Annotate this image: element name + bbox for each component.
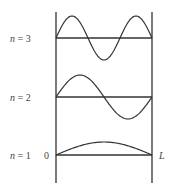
label-L: L (158, 150, 165, 161)
standing-wave-diagram: n = 3 n = 2 n = 1 0 L (0, 0, 172, 194)
label-n3: n = 3 (10, 33, 31, 44)
label-n1: n = 1 (10, 150, 31, 161)
label-zero: 0 (44, 150, 49, 161)
label-n2: n = 2 (10, 92, 31, 103)
wave-n1 (56, 142, 152, 155)
